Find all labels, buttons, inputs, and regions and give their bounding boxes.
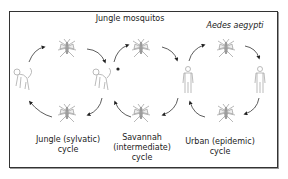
jungle-cycle-line2: cycle (30, 145, 106, 155)
aedes-aegypti-label: Aedes aegypti (200, 21, 270, 31)
savannah-line3: cycle (110, 153, 174, 163)
mosquito-bottom-middle-icon (132, 104, 150, 122)
jungle-cycle-label: Jungle (sylvatic) cycle (30, 135, 106, 155)
mosquito-top-middle-icon (132, 39, 150, 57)
mosquito-bottom-right-icon (217, 104, 235, 122)
savannah-line2: (intermediate) (110, 143, 174, 153)
urban-cycle-label: Urban (epidemic) cycle (180, 137, 260, 157)
mosquito-top-left-icon (58, 39, 76, 57)
jungle-mosquitos-label: Jungle mosquitos (95, 14, 165, 24)
human-right-icon (255, 67, 265, 94)
savannah-line1: Savannah (110, 133, 174, 143)
human-left-icon (183, 67, 193, 94)
mosquito-bottom-left-icon (58, 104, 76, 122)
dot-marker (116, 67, 119, 70)
urban-line2: cycle (180, 147, 260, 157)
monkey-middle-icon (93, 68, 111, 90)
savannah-cycle-label: Savannah (intermediate) cycle (110, 133, 174, 163)
jungle-cycle-line1: Jungle (sylvatic) (30, 135, 106, 145)
mosquito-top-right-icon (217, 39, 235, 57)
urban-line1: Urban (epidemic) (180, 137, 260, 147)
monkey-left-icon (14, 68, 32, 90)
